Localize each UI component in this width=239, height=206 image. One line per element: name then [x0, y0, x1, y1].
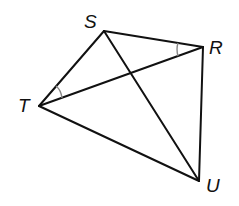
- vertex-label-T: T: [18, 96, 30, 115]
- vertex-label-R: R: [209, 38, 223, 57]
- angle-mark-T: [56, 86, 62, 98]
- quadrilateral-figure: [0, 0, 239, 206]
- segment-SR: [104, 31, 203, 47]
- diagram-canvas: S R T U: [0, 0, 239, 206]
- angle-mark-R: [177, 43, 178, 56]
- vertex-label-U: U: [206, 176, 220, 195]
- vertex-label-S: S: [84, 12, 97, 31]
- segment-RU: [199, 47, 203, 181]
